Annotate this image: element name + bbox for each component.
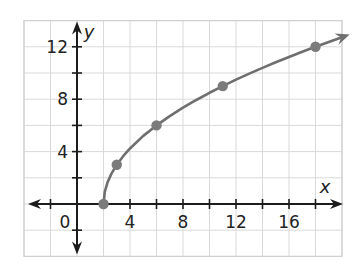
data-point xyxy=(310,42,320,52)
origin-label: 0 xyxy=(60,212,71,232)
data-point xyxy=(112,160,122,170)
y-axis-label: y xyxy=(83,21,95,42)
data-point xyxy=(98,199,108,209)
x-axis-label: x xyxy=(319,176,331,197)
x-tick-label: 8 xyxy=(178,212,189,232)
x-tick-label: 12 xyxy=(225,212,247,232)
y-tick-label: 8 xyxy=(57,89,68,109)
y-tick-label: 4 xyxy=(57,142,68,162)
y-tick-label: 12 xyxy=(46,37,68,57)
data-point xyxy=(151,120,161,130)
data-point xyxy=(218,81,228,91)
x-tick-label: 4 xyxy=(125,212,136,232)
square-root-graph: 04812164812xy xyxy=(0,0,360,271)
x-tick-label: 16 xyxy=(278,212,300,232)
